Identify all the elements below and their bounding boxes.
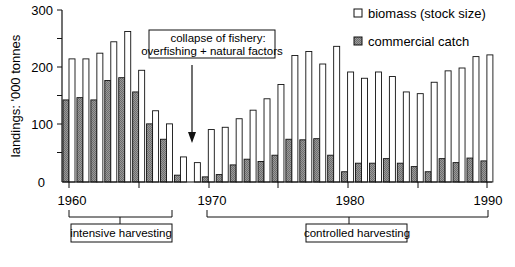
catch-bar-1990: [481, 161, 487, 182]
biomass-bar-1979: [334, 46, 340, 182]
catch-bar-1964: [119, 78, 125, 182]
catch-bar-1989: [467, 158, 473, 182]
y-tick-0: 0: [38, 175, 45, 190]
biomass-bar-1963: [111, 42, 117, 182]
biomass-bar-1973: [250, 110, 256, 182]
x-tick-1990: 1990: [474, 193, 503, 208]
biomass-bar-1984: [403, 92, 409, 182]
y-tick-300: 300: [31, 3, 53, 18]
biomass-bar-1968: [180, 157, 186, 182]
biomass-bar-1967: [167, 124, 173, 182]
catch-bar-1978: [314, 139, 320, 182]
biomass-bar-1962: [97, 53, 103, 182]
biomass-bar-1989: [473, 57, 479, 182]
intensive-harvesting-bracket: intensive harvesting: [69, 210, 172, 242]
biomass-bar-1982: [375, 72, 381, 182]
catch-bar-1984: [397, 163, 403, 182]
callout-line1: collapse of fishery:: [170, 32, 265, 44]
catch-bar-1976: [286, 139, 292, 182]
catch-bar-1960: [63, 100, 69, 182]
x-tick-1960: 1960: [58, 193, 87, 208]
catch-bar-1981: [356, 163, 362, 182]
x-axis: 1960 1970 1980 1990: [58, 182, 503, 208]
catch-bar-1962: [91, 100, 97, 182]
biomass-bar-1969: [194, 163, 200, 182]
y-tick-200: 200: [31, 60, 53, 75]
biomass-bar-1971: [222, 127, 228, 182]
catch-bar-1974: [258, 161, 264, 182]
catch-bar-1982: [369, 163, 375, 182]
biomass-bar-1961: [83, 59, 89, 182]
legend-biomass-label: biomass (stock size): [368, 6, 486, 21]
legend-catch-swatch: [354, 37, 362, 45]
catch-bar-1973: [244, 159, 250, 182]
catch-bar-1963: [105, 81, 111, 182]
biomass-bar-1974: [264, 99, 270, 182]
biomass-bar-1978: [320, 64, 326, 182]
catch-bar-1983: [383, 159, 389, 182]
y-tick-100: 100: [31, 117, 53, 132]
biomass-bar-1990: [487, 55, 493, 182]
biomass-bar-1987: [445, 71, 451, 182]
biomass-bar-1975: [278, 85, 284, 182]
catch-bar-1979: [328, 155, 334, 182]
chart: landings: '000 tonnes 300 200 100 0 1960…: [0, 0, 515, 267]
biomass-bar-1972: [236, 119, 242, 182]
biomass-bar-1965: [139, 70, 145, 182]
biomass-bar-1966: [153, 111, 159, 182]
catch-bar-1965: [133, 92, 139, 182]
catch-bar-1970: [202, 177, 208, 182]
biomass-bar-1986: [431, 82, 437, 182]
catch-bar-1961: [77, 98, 83, 182]
catch-bar-1987: [439, 159, 445, 182]
catch-bar-1988: [453, 163, 459, 182]
biomass-bar-1985: [417, 94, 423, 182]
x-tick-1970: 1970: [198, 193, 227, 208]
catch-bar-1977: [300, 140, 306, 182]
catch-bar-1985: [411, 167, 417, 182]
x-tick-1980: 1980: [336, 193, 365, 208]
biomass-bar-1980: [348, 72, 354, 182]
controlled-harvesting-bracket: controlled harvesting: [207, 210, 488, 242]
y-axis-label: landings: '000 tonnes: [8, 34, 23, 157]
catch-bar-1967: [161, 139, 167, 182]
biomass-bar-1983: [389, 77, 395, 182]
arrow-head-icon: [188, 132, 196, 143]
collapse-callout: collapse of fishery: overfishing + natur…: [141, 30, 283, 143]
biomass-bar-1977: [306, 51, 312, 182]
intensive-harvesting-label: intensive harvesting: [70, 227, 172, 239]
biomass-bar-1981: [362, 78, 368, 182]
catch-bar-1972: [230, 165, 236, 182]
legend-biomass-swatch: [354, 9, 362, 17]
catch-bar-1968: [174, 175, 180, 182]
biomass-bar-1976: [292, 55, 298, 182]
callout-line2: overfishing + natural factors: [141, 45, 283, 57]
biomass-bar-1964: [125, 32, 131, 182]
catch-bar-1975: [272, 155, 278, 182]
y-axis: 300 200 100 0: [31, 3, 62, 190]
biomass-bar-1960: [69, 59, 75, 182]
controlled-harvesting-label: controlled harvesting: [304, 227, 410, 239]
legend: biomass (stock size) commercial catch: [354, 6, 486, 49]
legend-catch-label: commercial catch: [368, 34, 469, 49]
biomass-bar-1970: [208, 130, 214, 182]
catch-bar-1986: [425, 172, 431, 182]
biomass-bar-1988: [459, 68, 465, 182]
catch-bar-1980: [342, 172, 348, 182]
catch-bar-1971: [216, 175, 222, 182]
catch-bar-1966: [147, 124, 153, 182]
